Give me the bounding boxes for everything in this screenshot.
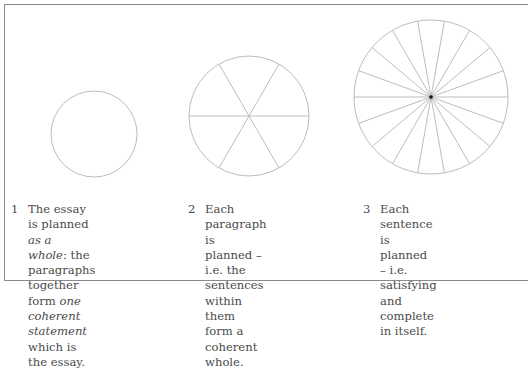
caption-number: 3 <box>363 202 370 217</box>
caption-text: Each paragraph isplanned – i.e. thesente… <box>205 202 267 370</box>
caption-number: 2 <box>188 202 195 217</box>
caption-number: 1 <box>11 202 18 217</box>
circle-3 <box>354 20 508 174</box>
circle-1 <box>51 91 137 177</box>
caption-text: Each sentence isplanned – i.e. satisfyin… <box>380 202 437 340</box>
circle-2 <box>189 56 309 176</box>
caption-text: The essay is planned as awhole: the para… <box>28 202 96 370</box>
